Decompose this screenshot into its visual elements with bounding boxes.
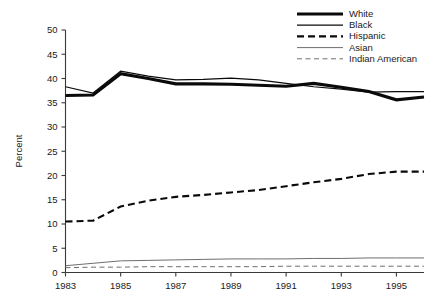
y-axis-title: Percent [13, 134, 24, 167]
legend-label-hispanic: Hispanic [349, 30, 386, 41]
legend-label-asian: Asian [349, 42, 373, 53]
x-tick-label: 1995 [386, 280, 407, 291]
series-group [66, 71, 425, 267]
x-tick-group: 1983198519871989199119931995 [55, 273, 407, 291]
y-tick-label: 50 [47, 24, 58, 35]
y-tick-label: 5 [52, 243, 57, 254]
chart-legend: WhiteBlackHispanicAsianIndian American [297, 8, 417, 64]
line-chart: 05101520253035404550 Percent 19831985198… [0, 0, 435, 302]
series-line-asian [66, 258, 425, 266]
series-line-hispanic [66, 172, 425, 222]
y-tick-label: 15 [47, 194, 58, 205]
y-tick-label: 20 [47, 170, 58, 181]
x-tick-label: 1991 [276, 280, 297, 291]
x-tick-label: 1985 [110, 280, 131, 291]
series-line-white [66, 74, 425, 100]
y-tick-label: 45 [47, 49, 58, 60]
y-tick-label: 35 [47, 97, 58, 108]
y-tick-group: 05101520253035404550 [47, 24, 66, 278]
x-tick-label: 1993 [331, 280, 352, 291]
y-tick-label: 25 [47, 146, 58, 157]
y-axis: 05101520253035404550 Percent [13, 24, 66, 278]
y-tick-label: 30 [47, 121, 58, 132]
x-tick-label: 1983 [55, 280, 76, 291]
series-line-indian-american [66, 266, 425, 267]
y-tick-label: 0 [52, 267, 57, 278]
chart-figure: 05101520253035404550 Percent 19831985198… [0, 0, 435, 302]
x-tick-label: 1989 [220, 280, 241, 291]
y-tick-label: 40 [47, 73, 58, 84]
y-tick-label: 10 [47, 218, 58, 229]
legend-label-white: White [349, 8, 373, 19]
legend-label-indian-american: Indian American [349, 53, 417, 64]
legend-label-black: Black [349, 19, 372, 30]
x-tick-label: 1987 [165, 280, 186, 291]
x-axis: 1983198519871989199119931995 [55, 273, 424, 291]
